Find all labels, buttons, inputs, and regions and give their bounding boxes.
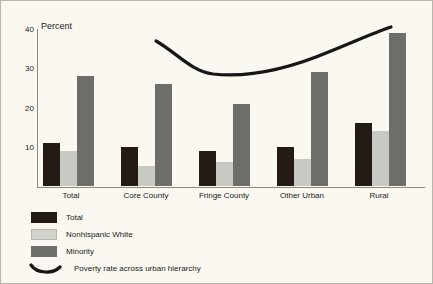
bar-rural-total: [355, 123, 372, 186]
bar-fringe-county-total: [199, 151, 216, 186]
chart-figure: Percent 40 30 20 10: [0, 0, 433, 284]
chart-legend: Total Nonhispanic White Minority Poverty…: [31, 209, 201, 277]
bar-total-minority: [77, 76, 94, 186]
legend-label-total: Total: [66, 213, 83, 222]
bar-other-urban-white: [294, 159, 311, 186]
x-axis-line: [37, 187, 425, 188]
bar-group-fringe-county: [199, 29, 255, 186]
bar-core-county-white: [138, 166, 155, 186]
x-tick-fringe-county: Fringe County: [189, 191, 259, 200]
plot-area: [37, 29, 425, 186]
legend-item-total: Total: [31, 209, 201, 225]
x-tick-core-county: Core County: [111, 191, 181, 200]
legend-swatch-total-icon: [31, 212, 57, 223]
bar-other-urban-minority: [311, 72, 328, 186]
legend-item-minority: Minority: [31, 243, 201, 259]
bar-total-total: [43, 143, 60, 186]
bar-group-rural: [355, 29, 411, 186]
bar-core-county-total: [121, 147, 138, 186]
x-tick-other-urban: Other Urban: [267, 191, 337, 200]
legend-curve-icon: [31, 263, 57, 274]
legend-swatch-nonhispanic-white-icon: [31, 229, 57, 240]
bar-group-total: [43, 29, 99, 186]
y-tick-40: 40: [25, 26, 34, 34]
bar-core-county-minority: [155, 84, 172, 186]
y-tick-10: 10: [25, 144, 34, 152]
y-tick-20: 20: [25, 105, 34, 113]
y-axis-tick-labels: 40 30 20 10: [1, 1, 34, 284]
legend-label-nonhispanic-white: Nonhispanic White: [66, 230, 133, 239]
x-tick-rural: Rural: [349, 191, 409, 200]
bar-other-urban-total: [277, 147, 294, 186]
x-tick-total: Total: [43, 191, 99, 200]
y-tick-30: 30: [25, 65, 34, 73]
bar-group-core-county: [121, 29, 177, 186]
bar-fringe-county-minority: [233, 104, 250, 186]
legend-item-poverty-rate-curve: Poverty rate across urban hierarchy: [31, 260, 201, 276]
legend-label-minority: Minority: [66, 247, 94, 256]
bar-total-white: [60, 151, 77, 186]
bar-rural-white: [372, 131, 389, 186]
bar-group-other-urban: [277, 29, 333, 186]
bar-rural-minority: [389, 33, 406, 186]
bar-fringe-county-white: [216, 162, 233, 186]
legend-label-poverty-rate-curve: Poverty rate across urban hierarchy: [74, 264, 201, 273]
legend-item-nonhispanic-white: Nonhispanic White: [31, 226, 201, 242]
legend-swatch-minority-icon: [31, 246, 57, 257]
